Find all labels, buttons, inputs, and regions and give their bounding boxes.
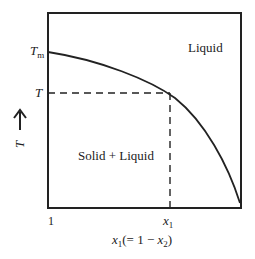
phase-diagram: Liquid Solid + Liquid Tm T T 1 x1 x1(= 1…	[0, 0, 255, 259]
t-tick-label: T	[35, 85, 43, 100]
x1-tick-label: x1	[162, 213, 173, 230]
solid-liquid-region-label: Solid + Liquid	[78, 148, 154, 163]
liquidus-curve	[48, 52, 240, 203]
y-axis-label: T	[12, 140, 27, 148]
liquid-region-label: Liquid	[188, 40, 223, 55]
tm-tick-label: Tm	[30, 43, 44, 60]
up-arrow-icon	[14, 110, 26, 130]
x-tick-1: 1	[48, 214, 54, 228]
x-axis-label: x1(= 1 − x2)	[111, 232, 172, 249]
